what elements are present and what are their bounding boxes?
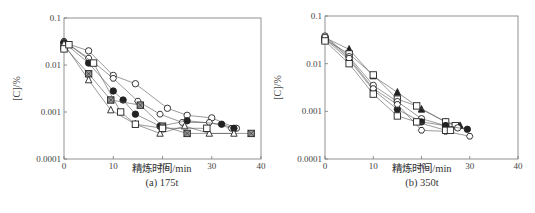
data-point bbox=[394, 102, 400, 108]
data-point bbox=[322, 38, 328, 44]
y-tick-label: 0.001 bbox=[41, 107, 61, 117]
data-point bbox=[110, 88, 116, 94]
y-tick-label: 0.1 bbox=[311, 11, 322, 21]
chart-panel-350t: 0102030400.00010.0010.010.1[C]/% 精炼时间/mi… bbox=[267, 0, 535, 213]
data-point bbox=[394, 89, 400, 96]
y-tick-label: 0.01 bbox=[45, 60, 61, 70]
data-point bbox=[85, 48, 91, 54]
data-point bbox=[370, 72, 376, 78]
data-point bbox=[394, 113, 400, 119]
data-point bbox=[370, 91, 376, 97]
data-point bbox=[159, 125, 165, 131]
y-axis-label: [C]/% bbox=[11, 76, 22, 100]
x-axis-label: 精炼时间/min bbox=[362, 160, 482, 175]
chart-caption: (a) 175t bbox=[102, 177, 222, 188]
data-point bbox=[346, 60, 352, 66]
data-point bbox=[132, 81, 138, 87]
series-open-square-a bbox=[322, 36, 459, 128]
series-filled-triangle bbox=[322, 34, 464, 129]
y-axis-label: [C]/% bbox=[272, 75, 283, 99]
x-tick-label: 0 bbox=[62, 161, 67, 171]
data-point bbox=[447, 127, 453, 133]
data-point bbox=[206, 120, 212, 126]
y-tick-label: 0.0001 bbox=[36, 154, 61, 164]
data-point bbox=[464, 126, 470, 132]
x-tick-label: 40 bbox=[257, 161, 267, 171]
data-point bbox=[117, 109, 123, 115]
series-open-circle bbox=[61, 39, 240, 131]
y-tick-label: 0.01 bbox=[306, 59, 322, 69]
chart-caption: (b) 350t bbox=[362, 177, 482, 188]
x-tick-label: 0 bbox=[323, 161, 328, 171]
data-point bbox=[418, 128, 424, 134]
plot-frame bbox=[325, 16, 518, 159]
series-open-circle bbox=[322, 33, 461, 131]
data-point bbox=[132, 111, 138, 117]
y-tick-label: 0.001 bbox=[302, 106, 322, 116]
data-point bbox=[413, 103, 419, 109]
data-point bbox=[132, 121, 138, 127]
data-point bbox=[218, 121, 224, 127]
x-axis-label: 精炼时间/min bbox=[102, 160, 222, 175]
y-tick-label: 0.0001 bbox=[297, 154, 322, 164]
data-point bbox=[164, 105, 170, 111]
data-point bbox=[157, 111, 163, 117]
data-point bbox=[467, 133, 473, 139]
plot-frame bbox=[64, 18, 261, 159]
data-point bbox=[90, 60, 96, 66]
x-tick-label: 40 bbox=[514, 161, 524, 171]
data-point bbox=[66, 42, 72, 48]
y-tick-label: 0.1 bbox=[50, 13, 61, 23]
data-point bbox=[204, 125, 210, 131]
data-point bbox=[110, 76, 116, 82]
chart-panel-175t: 0102030400.00010.0010.010.1[C]/% 精炼时间/mi… bbox=[0, 0, 268, 213]
data-point bbox=[413, 119, 419, 125]
